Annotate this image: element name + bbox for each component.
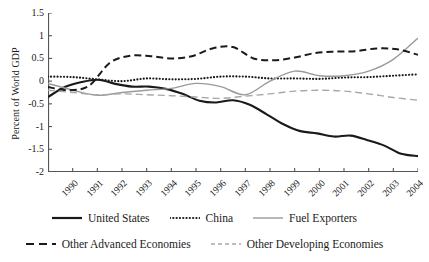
x-tick-label: 1990 xyxy=(60,178,81,199)
chart-figure: Percent of World GDP 1.510.50-0.5-1-1.5-… xyxy=(0,0,429,262)
legend-item-label: Other Developing Economies xyxy=(247,238,384,250)
legend-swatch-solid-gray xyxy=(253,213,283,223)
x-tick-label: 1993 xyxy=(134,178,155,199)
legend-swatch-solid-black-thick xyxy=(52,213,82,223)
legend-item-label: Other Advanced Economies xyxy=(62,238,191,250)
legend-item[interactable]: Other Advanced Economies xyxy=(26,238,211,250)
legend-item[interactable]: Other Developing Economies xyxy=(211,238,404,250)
x-tick-label: 2003 xyxy=(380,178,401,199)
legend-swatch-dashed-black xyxy=(26,239,56,249)
x-tick-label: 1995 xyxy=(183,178,204,199)
x-tick-label: 2001 xyxy=(331,178,352,199)
legend-item[interactable]: China xyxy=(170,212,253,224)
chart-legend: United StatesChinaFuel Exporters Other A… xyxy=(0,205,429,262)
legend-item-label: Fuel Exporters xyxy=(289,212,357,224)
x-tick-label: 1999 xyxy=(282,178,303,199)
legend-item-label: China xyxy=(206,212,233,224)
legend-row-1: United StatesChinaFuel Exporters xyxy=(0,205,429,231)
legend-item[interactable]: Fuel Exporters xyxy=(253,212,377,224)
x-tick-label: 2002 xyxy=(356,178,377,199)
x-tick-label: 2000 xyxy=(306,178,327,199)
x-tick-label: 1996 xyxy=(208,178,229,199)
legend-item-label: United States xyxy=(88,212,150,224)
legend-swatch-dotted-black xyxy=(170,213,200,223)
x-tick-label: 1991 xyxy=(84,178,105,199)
x-tick-label: 1998 xyxy=(257,178,278,199)
x-tick-label: 1994 xyxy=(158,178,179,199)
legend-row-2: Other Advanced EconomiesOther Developing… xyxy=(0,231,429,257)
x-tick-label: 1992 xyxy=(109,178,130,199)
legend-item[interactable]: United States xyxy=(52,212,170,224)
legend-swatch-dashed-gray xyxy=(211,239,241,249)
x-tick-label: 2004 xyxy=(405,178,426,199)
x-tick-label: 1997 xyxy=(232,178,253,199)
